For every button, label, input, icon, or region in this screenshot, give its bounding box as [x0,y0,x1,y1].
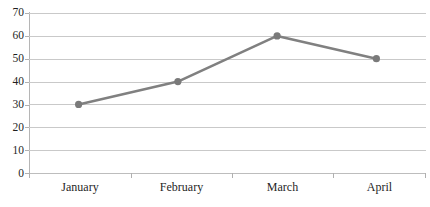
x-tick-mark-end [425,173,426,178]
x-tick-label-march: March [232,180,333,194]
data-point-february[interactable] [174,78,181,85]
x-tick-label-january: January [29,180,131,194]
data-point-march[interactable] [274,32,281,39]
x-tick-mark-start [29,173,30,178]
x-tick-label-april: April [333,180,426,194]
data-point-january[interactable] [75,101,82,108]
x-tick-mark-2 [232,173,233,178]
line-chart: 70 60 50 40 30 20 10 0 Janu [0,0,430,207]
x-tick-label-february: February [131,180,232,194]
data-point-april[interactable] [373,55,380,62]
data-series-layer [0,0,430,207]
series-line [79,36,377,105]
x-tick-mark-1 [131,173,132,178]
x-tick-mark-3 [333,173,334,178]
